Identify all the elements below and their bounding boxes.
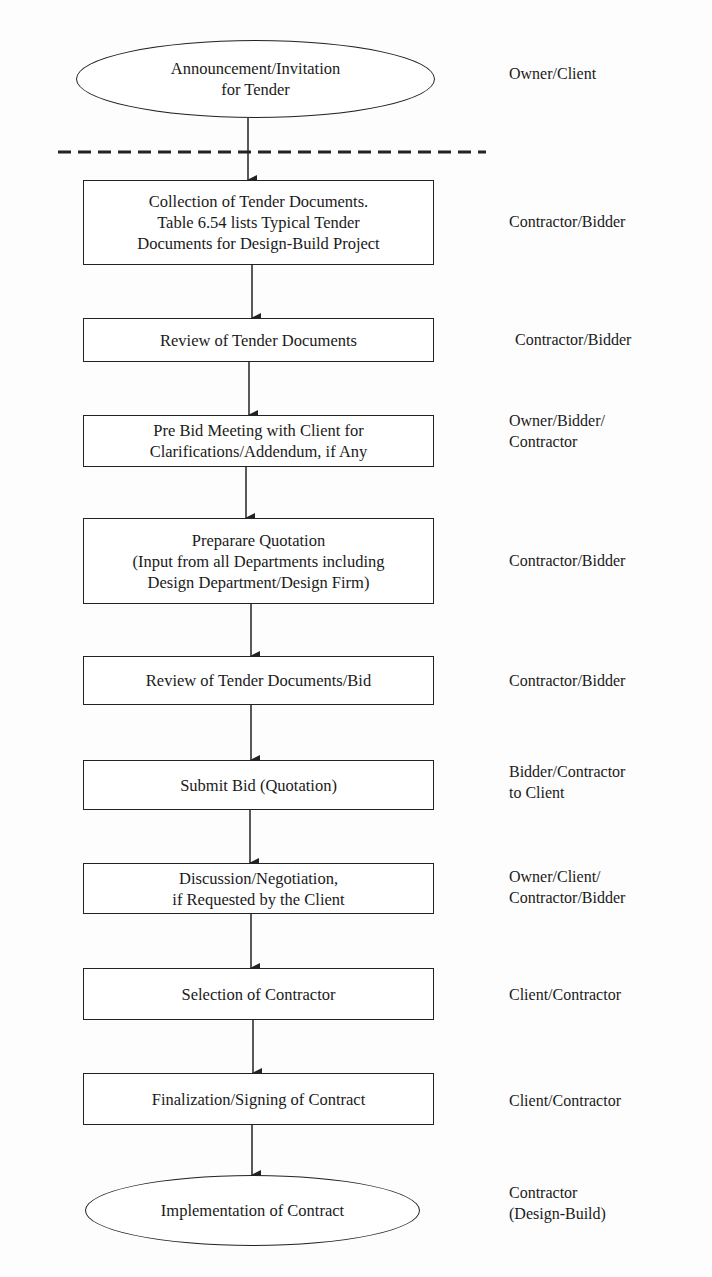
role-label: Bidder/Contractor to Client [509,761,625,803]
step-quotation: Preparare Quotation (Input from all Depa… [83,518,434,604]
end-node-implementation: Implementation of Contract [85,1175,420,1246]
tender-process-flowchart: Announcement/Invitation for Tender Owner… [0,0,712,1277]
role-label: Owner/Bidder/ Contractor [509,410,605,452]
role-label: Contractor/Bidder [509,211,625,232]
step-signing: Finalization/Signing of Contract [83,1073,434,1125]
step-review: Review of Tender Documents [83,318,434,362]
role-label: Client/Contractor [509,1090,621,1111]
role-label: Client/Contractor [509,984,621,1005]
role-label: Owner/Client [509,63,596,84]
role-label: Contractor/Bidder [515,329,631,350]
step-submit-bid: Submit Bid (Quotation) [83,760,434,810]
step-selection: Selection of Contractor [83,968,434,1020]
role-label: Contractor/Bidder [509,550,625,571]
start-node-announcement: Announcement/Invitation for Tender [76,40,435,118]
step-negotiation: Discussion/Negotiation, if Requested by … [83,863,434,914]
step-prebid: Pre Bid Meeting with Client for Clarific… [83,415,434,467]
role-label: Contractor/Bidder [509,670,625,691]
step-review-bid: Review of Tender Documents/Bid [83,656,434,705]
role-label: Owner/Client/ Contractor/Bidder [509,866,625,908]
role-label: Contractor (Design-Build) [509,1182,606,1224]
step-collection: Collection of Tender Documents. Table 6.… [83,180,434,265]
